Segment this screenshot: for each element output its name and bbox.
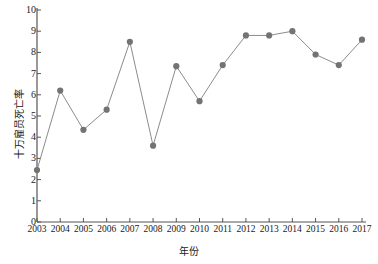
- data-point-marker: [150, 143, 156, 149]
- data-point-marker: [127, 39, 133, 45]
- data-point-markers: [34, 28, 365, 173]
- data-point-marker: [289, 28, 295, 34]
- data-point-marker: [336, 62, 342, 68]
- plot-area: [0, 0, 378, 264]
- axis-spines: [37, 8, 366, 222]
- data-point-marker: [57, 87, 63, 93]
- data-point-marker: [104, 107, 110, 113]
- data-point-marker: [196, 98, 202, 104]
- data-point-marker: [80, 127, 86, 133]
- x-axis-title: 年份: [0, 243, 378, 258]
- data-point-marker: [312, 51, 318, 57]
- data-point-marker: [243, 32, 249, 38]
- data-point-marker: [34, 167, 40, 173]
- data-point-marker: [359, 37, 365, 43]
- line-chart: 十万雇员死亡率 012345678910 2003200420052006200…: [0, 0, 378, 264]
- axis-tick-marks: [37, 10, 362, 222]
- data-point-marker: [220, 62, 226, 68]
- data-point-marker: [173, 63, 179, 69]
- data-point-marker: [266, 32, 272, 38]
